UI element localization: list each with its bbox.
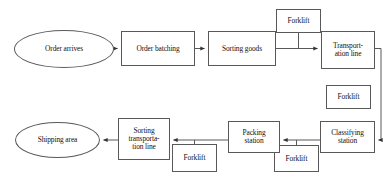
node-classifying-station[interactable]: Classifying station — [320, 121, 375, 153]
node-packing-station[interactable]: Packing station — [228, 121, 280, 153]
node-forklift-right-label: Forklift — [337, 93, 361, 101]
node-transportation-line-label: Transport- ation line — [332, 42, 364, 58]
node-order-batching[interactable]: Order batching — [121, 31, 195, 66]
node-classifying-station-label: Classifying station — [330, 129, 365, 145]
node-transportation-line[interactable]: Transport- ation line — [321, 31, 375, 69]
node-sorting-transportation-line[interactable]: Sorting transporta- tion line — [118, 118, 170, 160]
node-forklift-bottom-right-label: Forklift — [285, 155, 309, 163]
node-sorting-goods-label: Sorting goods — [221, 45, 263, 53]
node-forklift-top[interactable]: Forklift — [276, 9, 321, 33]
node-forklift-top-label: Forklift — [287, 17, 311, 25]
node-shipping-area-label: Shipping area — [37, 136, 79, 144]
node-sorting-goods[interactable]: Sorting goods — [208, 31, 276, 66]
node-shipping-area[interactable]: Shipping area — [15, 122, 100, 158]
flowchart-diagram: Order arrives Order batching Sorting goo… — [0, 0, 387, 188]
node-forklift-bottom-right[interactable]: Forklift — [274, 145, 319, 172]
node-order-batching-label: Order batching — [135, 45, 180, 53]
node-forklift-bottom-left-label: Forklift — [183, 154, 207, 162]
node-order-arrives-label: Order arrives — [44, 45, 84, 53]
node-order-arrives[interactable]: Order arrives — [14, 30, 114, 68]
node-packing-station-label: Packing station — [241, 129, 266, 145]
node-sorting-transportation-line-label: Sorting transporta- tion line — [128, 127, 161, 151]
node-forklift-bottom-left[interactable]: Forklift — [172, 144, 217, 172]
edge-transportation-line-to-classifying-station — [375, 49, 381, 141]
node-forklift-right[interactable]: Forklift — [326, 85, 371, 109]
